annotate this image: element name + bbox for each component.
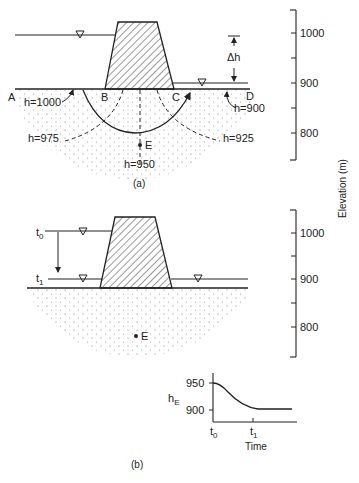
head-label-950: h=950	[124, 158, 155, 170]
xtick-t1: t1	[250, 425, 258, 440]
head-label-900: h=900	[234, 102, 265, 114]
caption-b: (b)	[131, 459, 143, 470]
xtick-t0: t0	[210, 425, 218, 440]
elevation-axis-label: Elevation (m)	[337, 159, 348, 218]
ytick-900: 900	[186, 404, 204, 416]
y-axis-label: hE	[168, 392, 179, 407]
tick-1000-b: 1000	[300, 227, 324, 239]
dam	[105, 22, 174, 89]
tick-800-a: 800	[300, 127, 318, 139]
caption-a: (a)	[133, 178, 145, 189]
head-label-925: h=925	[223, 132, 254, 144]
dam	[100, 217, 172, 288]
head-label-1000: h=1000	[24, 96, 61, 108]
tick-900-a: 900	[300, 77, 318, 89]
point-e-marker	[134, 334, 138, 338]
tick-900-b: 900	[300, 273, 318, 285]
t1-label: t1	[36, 272, 44, 287]
x-axis-label: Time	[245, 441, 267, 452]
t0-label: t0	[36, 226, 44, 241]
elevation-scale-a: 1000 900 800	[290, 10, 324, 160]
aquifer-stipple	[30, 288, 248, 358]
tick-1000-a: 1000	[300, 27, 324, 39]
panel-a: Δh A B C D E h=1000 h=975 h=950 h=925 h=…	[8, 22, 265, 189]
tick-800-b: 800	[300, 321, 318, 333]
point-e-marker	[138, 143, 142, 147]
head-curve	[213, 383, 292, 409]
point-a-label: A	[8, 91, 16, 103]
head-vs-time-chart: 950 900 hE t0 t1 Time	[168, 373, 297, 452]
point-e-label: E	[145, 139, 152, 151]
point-c-label: C	[172, 91, 180, 103]
elevation-scale-b: 1000 900 800	[290, 210, 324, 357]
panel-b: t0 t1 E	[27, 217, 248, 358]
figure-canvas: Δh A B C D E h=1000 h=975 h=950 h=925 h=…	[0, 0, 359, 483]
point-e-label: E	[141, 330, 148, 342]
point-b-label: B	[101, 91, 108, 103]
head-label-975: h=975	[28, 132, 59, 144]
ytick-950: 950	[186, 377, 204, 389]
delta-h-label: Δh	[227, 51, 240, 63]
point-d-label: D	[246, 90, 254, 102]
